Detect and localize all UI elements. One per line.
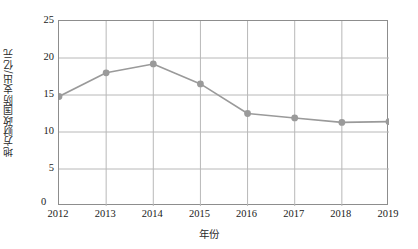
data-point — [386, 118, 389, 125]
data-point — [197, 81, 204, 88]
line-chart: 地方财政国防支出/亿元 510152025 0 2012201320142015… — [0, 0, 418, 249]
data-point — [244, 110, 251, 117]
data-point — [291, 115, 298, 122]
y-axis-tick-label: 20 — [18, 52, 54, 63]
x-axis-tick-label: 2017 — [283, 208, 304, 220]
x-axis-tick-label: 2014 — [142, 208, 163, 220]
x-axis-tick-labels: 20122013201420152016201720182019 — [0, 208, 418, 224]
y-axis-tick-label: 25 — [18, 15, 54, 26]
plot-area — [58, 20, 388, 205]
x-axis-tick-label: 2018 — [330, 208, 351, 220]
y-axis-title: 地方财政国防支出/亿元 — [0, 0, 16, 205]
plot-svg — [59, 21, 389, 206]
y-axis-tick-label: 15 — [18, 89, 54, 100]
data-point — [338, 119, 345, 126]
series-markers — [59, 61, 389, 126]
axis-origin-label: 0 — [41, 196, 46, 207]
y-axis-tick-label: 10 — [18, 126, 54, 137]
data-point — [103, 69, 110, 76]
y-axis-tick-label: 5 — [18, 163, 54, 174]
x-axis-tick-label: 2013 — [95, 208, 116, 220]
y-axis-title-text: 地方财政国防支出/亿元 — [1, 49, 16, 157]
data-point — [150, 61, 157, 68]
x-axis-tick-label: 2015 — [189, 208, 210, 220]
x-axis-title: 年份 — [0, 226, 418, 241]
x-axis-tick-label: 2019 — [378, 208, 399, 220]
x-axis-tick-label: 2016 — [236, 208, 257, 220]
x-axis-tick-label: 2012 — [48, 208, 69, 220]
vertical-gridlines — [106, 21, 342, 206]
data-point — [59, 93, 62, 100]
